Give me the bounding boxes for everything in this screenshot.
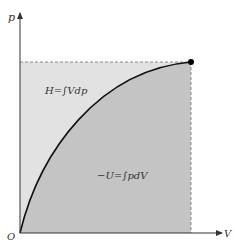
upper-region-label: H=∫Vdp xyxy=(44,85,88,96)
origin-label: O xyxy=(7,231,15,242)
pv-diagram: p V O H=∫Vdp −U=∫pdV xyxy=(0,0,235,249)
x-axis-label: V xyxy=(224,228,233,239)
diagram-canvas: p V O H=∫Vdp −U=∫pdV xyxy=(0,0,235,249)
endpoint-dot xyxy=(188,59,194,65)
lower-region-label: −U=∫pdV xyxy=(97,170,149,181)
y-axis-label: p xyxy=(8,11,15,24)
